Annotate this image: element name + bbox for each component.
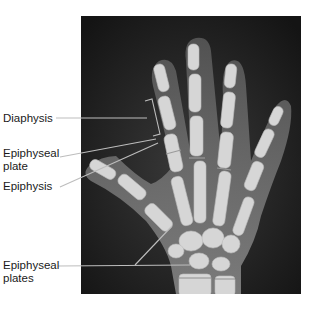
label-diaphysis: Diaphysis xyxy=(3,112,53,125)
label-epiphyseal-plate: Epiphyseal plate xyxy=(3,147,59,173)
label-epiphyseal-plate-line1: Epiphyseal xyxy=(3,147,59,160)
label-epiphyseal-plate-line2: plate xyxy=(3,160,59,173)
label-epiphysis-text: Epiphysis xyxy=(3,180,52,192)
hand-xray-figure: Diaphysis Epiphyseal plate Epiphysis Epi… xyxy=(0,0,316,314)
hand-xray-illustration xyxy=(81,16,301,294)
xray-image xyxy=(81,16,301,294)
label-epiphyseal-plates-line2: plates xyxy=(3,272,59,285)
label-epiphysis: Epiphysis xyxy=(3,180,52,193)
label-epiphyseal-plates-line1: Epiphyseal xyxy=(3,259,59,272)
label-diaphysis-text: Diaphysis xyxy=(3,112,53,124)
label-epiphyseal-plates: Epiphyseal plates xyxy=(3,259,59,285)
